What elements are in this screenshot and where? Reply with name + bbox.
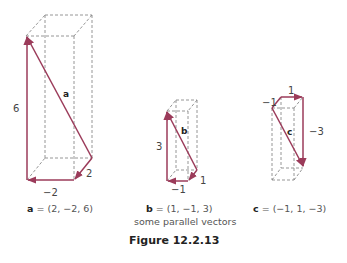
vector-a-components xyxy=(27,37,92,180)
vector-a-z-label: 6 xyxy=(13,103,19,114)
figure-subtitle: some parallel vectors xyxy=(134,216,236,227)
figure-title: Figure 12.2.13 xyxy=(129,234,219,247)
vector-b-caption-name: b xyxy=(146,203,153,214)
vector-b-y-label: 1 xyxy=(200,175,206,186)
vector-c-y-label: −1 xyxy=(262,97,277,108)
vector-c-label: c xyxy=(287,127,292,137)
vector-c-caption: c = (−1, 1, −3) xyxy=(253,203,326,214)
vector-a-label: a xyxy=(63,89,69,99)
vector-a-caption-value: = (2, −2, 6) xyxy=(33,203,93,214)
vector-c-x-label: 1 xyxy=(288,85,294,96)
vector-b-arrow xyxy=(167,112,197,170)
vector-b-x-label: −1 xyxy=(171,184,186,195)
vector-a-caption: a = (2, −2, 6) xyxy=(27,203,93,214)
vector-b-caption: b = (1, −1, 3) xyxy=(146,203,212,214)
vector-b-label: b xyxy=(181,126,188,136)
vector-a-x-label: −2 xyxy=(43,187,58,198)
vector-b-components xyxy=(167,112,197,181)
vector-b-caption-value: = (1, −1, 3) xyxy=(153,203,213,214)
vector-b-z-label: 3 xyxy=(156,141,162,152)
vector-c-arrow xyxy=(272,108,303,166)
vector-c-caption-value: = (−1, 1, −3) xyxy=(259,203,327,214)
vector-a-arrow xyxy=(27,37,92,158)
vector-a-y-label: 2 xyxy=(86,168,92,179)
vector-c-z-label: −3 xyxy=(309,126,324,137)
